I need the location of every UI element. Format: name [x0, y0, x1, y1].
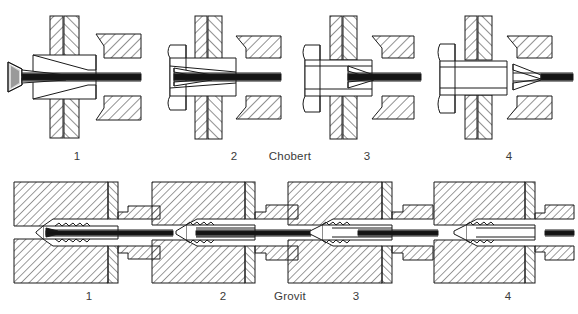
panel-grovit-4	[434, 182, 574, 283]
sheet-lower	[195, 95, 222, 139]
panel-grovit-1	[14, 182, 173, 283]
mandrel-stem	[348, 73, 421, 81]
nose-piece-lower	[372, 96, 414, 119]
panel-chobert-2	[168, 16, 281, 139]
workpiece-lower	[14, 239, 108, 283]
mating-plate-upper	[108, 182, 118, 219]
caption-grovit-step-4: 4	[498, 290, 518, 302]
nose-piece-lower	[236, 96, 281, 119]
workpiece-lower	[152, 240, 245, 283]
sheet-lower	[50, 96, 79, 138]
mandrel-stem	[46, 230, 173, 236]
panel-chobert-3	[303, 16, 421, 139]
workpiece-upper	[288, 182, 382, 225]
nose-piece-upper	[96, 34, 141, 58]
caption-chobert-step-2: 2	[224, 150, 244, 162]
panel-chobert-4	[438, 16, 573, 139]
nose-piece-upper	[236, 36, 281, 58]
mandrel-stem	[545, 230, 574, 236]
workpiece-upper	[152, 182, 245, 225]
caption-process-chobert: Chobert	[255, 150, 325, 162]
tool-nose-upper	[392, 205, 433, 219]
nose-piece-upper	[507, 36, 552, 58]
caption-chobert-step-1: 1	[67, 150, 87, 162]
rivet-shell-serrated	[466, 222, 535, 243]
sheet-upper	[330, 16, 357, 60]
caption-chobert-step-4: 4	[499, 150, 519, 162]
caption-grovit-step-2: 2	[213, 290, 233, 302]
mandrel-taper	[513, 64, 541, 90]
mating-plate-upper	[245, 182, 255, 219]
workpiece-lower	[434, 240, 525, 283]
nose-piece-lower	[507, 96, 552, 119]
sheet-lower	[330, 95, 357, 139]
sheet-upper	[50, 16, 79, 58]
blind-hole-bore	[454, 225, 466, 240]
panel-chobert-1	[8, 16, 141, 138]
mandrel-head	[8, 62, 22, 92]
mating-plate-lower	[245, 246, 255, 283]
nose-piece-lower	[96, 96, 141, 120]
blind-hole-bore	[310, 225, 322, 240]
sheet-lower	[465, 95, 492, 139]
caption-grovit-step-3: 3	[346, 290, 366, 302]
mandrel-stem	[358, 230, 438, 236]
workpiece-upper	[14, 182, 108, 226]
nose-piece-upper	[372, 36, 414, 58]
tool-nose-lower	[535, 246, 574, 260]
mandrel-stem	[196, 230, 311, 236]
mandrel-stem	[513, 73, 573, 81]
mating-plate-lower	[525, 246, 535, 283]
mandrel-stem	[174, 73, 281, 81]
caption-process-grovit: Grovit	[258, 290, 322, 302]
workpiece-upper	[434, 182, 525, 225]
blind-hole-bore	[36, 226, 43, 239]
mating-plate-lower	[382, 246, 392, 283]
blind-hole-bore	[176, 225, 186, 240]
panel-grovit-2	[152, 182, 311, 283]
mating-plate-lower	[108, 246, 118, 283]
mandrel-stem	[22, 73, 141, 81]
workpiece-lower	[288, 240, 382, 283]
tool-nose-upper	[535, 205, 574, 219]
mating-plate-upper	[525, 182, 535, 219]
tool-nose-lower	[392, 246, 433, 260]
caption-chobert-step-3: 3	[357, 150, 377, 162]
mating-plate-upper	[382, 182, 392, 219]
sheet-upper	[195, 16, 222, 60]
sheet-upper	[465, 16, 492, 60]
caption-grovit-step-1: 1	[79, 290, 99, 302]
panel-grovit-3	[288, 182, 438, 283]
